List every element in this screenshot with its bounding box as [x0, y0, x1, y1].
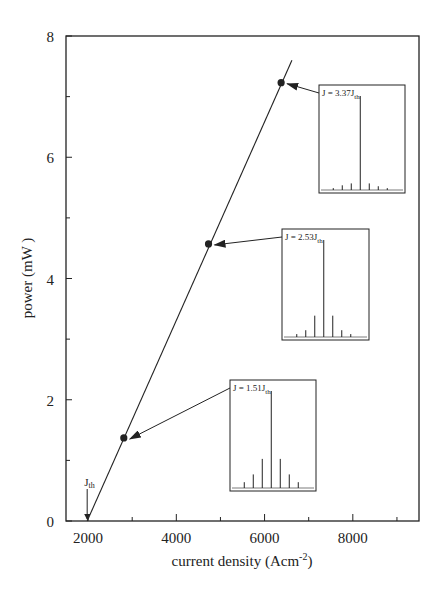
x-axis-title: current density (Acm-2) — [172, 551, 313, 570]
inset-box — [282, 229, 369, 340]
inset-spectrum-1: J = 1.51Jth — [130, 380, 316, 491]
x-tick-label: 6000 — [250, 530, 280, 546]
inset-box — [230, 380, 316, 491]
data-point-marker — [205, 240, 212, 247]
pointer-arrow — [130, 388, 230, 439]
y-tick-label: 8 — [47, 29, 55, 45]
pointer-arrow — [287, 84, 319, 93]
inset-box — [319, 85, 405, 193]
y-tick-label: 2 — [47, 393, 55, 409]
x-tick-label: 8000 — [338, 530, 368, 546]
data-point-marker — [120, 434, 127, 441]
inset-spectrum-3: J = 3.37Jth — [287, 84, 405, 193]
pointer-arrow — [215, 237, 282, 245]
jth-label: Jth — [84, 476, 95, 490]
data-point-marker — [278, 79, 285, 86]
x-axis-ticks: 2000400060008000 — [73, 514, 397, 546]
threshold-annotation: Jth — [84, 476, 95, 519]
x-tick-label: 4000 — [161, 530, 191, 546]
y-tick-label: 4 — [47, 272, 55, 288]
y-tick-label: 0 — [47, 514, 55, 530]
y-tick-label: 6 — [47, 150, 55, 166]
inset-spectrum-2: J = 2.53Jth — [215, 229, 369, 340]
chart: 02468 2000400060008000 J = 1.51JthJ = 2.… — [0, 0, 438, 595]
y-axis-title: power (mW ) — [19, 238, 36, 319]
inset-spectra: J = 1.51JthJ = 2.53JthJ = 3.37Jth — [130, 84, 405, 491]
x-tick-label: 2000 — [73, 530, 103, 546]
y-axis-ticks: 02468 — [47, 29, 73, 530]
